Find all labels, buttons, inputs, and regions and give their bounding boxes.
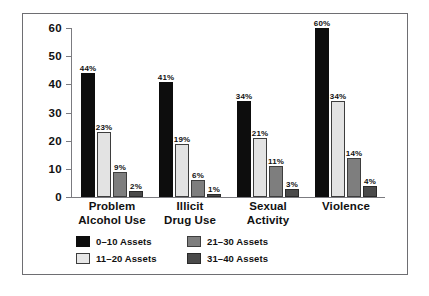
legend-item-label: 31–40 Assets: [207, 253, 268, 264]
x-category-label-problem-alcohol-use: Problem Alcohol Use: [72, 200, 152, 227]
bar-g3-s2: 14%: [347, 158, 361, 197]
bar-g2-s3: 3%: [285, 189, 299, 198]
bar-value-label: 6%: [192, 171, 204, 180]
plot-area: 44% 23% 9% 2% 41% 19% 6% 1% 34% 21%: [72, 28, 384, 197]
legend-item-0-10-assets: 0–10 Assets: [76, 236, 152, 247]
y-tick-label: 30: [36, 107, 62, 119]
bar-value-label: 19%: [174, 135, 190, 144]
bar-value-label: 9%: [114, 163, 126, 172]
x-category-line1: Illicit: [150, 200, 230, 214]
legend-item-31-40-assets: 31–40 Assets: [187, 253, 268, 264]
legend-item-11-20-assets: 11–20 Assets: [76, 253, 157, 264]
bar-value-label: 41%: [158, 73, 174, 82]
bar-g0-s0: 44%: [81, 73, 95, 197]
bar-value-label: 60%: [314, 19, 330, 28]
bar-g2-s2: 11%: [269, 166, 283, 197]
bar-value-label: 34%: [330, 92, 346, 101]
bar-g3-s1: 34%: [331, 101, 345, 197]
x-category-label-sexual-activity: Sexual Activity: [228, 200, 308, 227]
bar-value-label: 1%: [208, 185, 220, 194]
bar-g2-s0: 34%: [237, 101, 251, 197]
legend-swatch-icon: [76, 253, 90, 264]
bar-g1-s3: 1%: [207, 194, 221, 197]
chart-figure: 60 50 40 30 20 10 0 44% 23% 9% 2% 41% 19…: [0, 0, 429, 296]
legend-item-21-30-assets: 21–30 Assets: [187, 236, 268, 247]
bar-g1-s0: 41%: [159, 82, 173, 197]
y-tick-label: 20: [36, 135, 62, 147]
legend-swatch-icon: [76, 236, 90, 247]
legend-item-label: 11–20 Assets: [96, 253, 157, 264]
y-tick-label: 60: [36, 22, 62, 34]
legend-item-label: 0–10 Assets: [96, 236, 152, 247]
bar-value-label: 11%: [268, 157, 284, 166]
bar-value-label: 34%: [236, 92, 252, 101]
chart-legend: 0–10 Assets 11–20 Assets 21–30 Assets 31…: [76, 236, 306, 270]
bar-g3-s3: 4%: [363, 186, 377, 197]
y-tick-label: 50: [36, 50, 62, 62]
bar-value-label: 2%: [130, 182, 142, 191]
x-category-label-violence: Violence: [306, 200, 386, 214]
y-axis-tick-labels: 60 50 40 30 20 10 0: [34, 0, 62, 296]
bar-g1-s1: 19%: [175, 144, 189, 198]
x-category-label-illicit-drug-use: Illicit Drug Use: [150, 200, 230, 227]
bar-g1-s2: 6%: [191, 180, 205, 197]
x-category-line2: Alcohol Use: [72, 214, 152, 228]
x-category-line2: Drug Use: [150, 214, 230, 228]
y-tick-label: 0: [36, 191, 62, 203]
bar-value-label: 44%: [80, 64, 96, 73]
x-category-line1: Violence: [306, 200, 386, 214]
legend-item-label: 21–30 Assets: [207, 236, 268, 247]
bar-g2-s1: 21%: [253, 138, 267, 197]
legend-swatch-icon: [187, 253, 201, 264]
bar-value-label: 14%: [346, 149, 362, 158]
bar-g3-s0: 60%: [315, 28, 329, 197]
y-tick-label: 10: [36, 163, 62, 175]
bar-value-label: 21%: [252, 129, 268, 138]
y-tick-label: 40: [36, 78, 62, 90]
bar-value-label: 23%: [96, 123, 112, 132]
bar-value-label: 4%: [364, 177, 376, 186]
x-category-line1: Problem: [72, 200, 152, 214]
x-category-line2: Activity: [228, 214, 308, 228]
x-category-line1: Sexual: [228, 200, 308, 214]
legend-swatch-icon: [187, 236, 201, 247]
bar-g0-s1: 23%: [97, 132, 111, 197]
bar-g0-s2: 9%: [113, 172, 127, 197]
bar-value-label: 3%: [286, 180, 298, 189]
bar-g0-s3: 2%: [129, 191, 143, 197]
